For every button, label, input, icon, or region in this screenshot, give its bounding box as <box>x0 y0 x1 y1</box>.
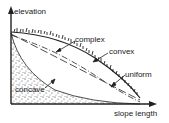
y-axis-label: elevation <box>14 8 46 16</box>
diagram-canvas <box>0 0 169 123</box>
x-axis-label: slope length <box>114 110 157 118</box>
convex-label: convex <box>109 48 134 56</box>
slope-profile-diagram: elevation complex convex uniform concave… <box>0 0 169 123</box>
uniform-label: uniform <box>125 71 152 79</box>
complex-label: complex <box>75 36 105 44</box>
concave-label: concave <box>15 86 45 94</box>
x-axis-arrow-icon <box>149 101 157 107</box>
